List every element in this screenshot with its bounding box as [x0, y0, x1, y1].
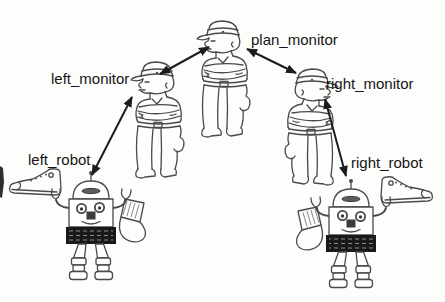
label-left-monitor: left_monitor	[51, 70, 129, 87]
left-robot-figure	[10, 169, 146, 280]
arrow-right-robot-right-monitor	[325, 99, 346, 176]
left-monitor-figure	[131, 62, 184, 178]
plan-monitor-figure	[197, 21, 250, 137]
diagram-canvas: plan_monitor left_monitor right_monitor …	[0, 0, 445, 302]
arrow-plan-monitor-right-monitor	[247, 49, 296, 73]
label-right-robot: right_robot	[351, 154, 424, 171]
diagram-page: plan_monitor left_monitor right_monitor …	[0, 0, 445, 302]
label-right-monitor: right_monitor	[326, 75, 414, 92]
scan-edge-artifact	[0, 166, 4, 198]
label-plan-monitor: plan_monitor	[251, 31, 338, 48]
label-left-robot: left_robot	[28, 151, 91, 168]
arrow-left-robot-left-monitor	[92, 97, 132, 175]
right-robot-figure	[297, 177, 433, 288]
